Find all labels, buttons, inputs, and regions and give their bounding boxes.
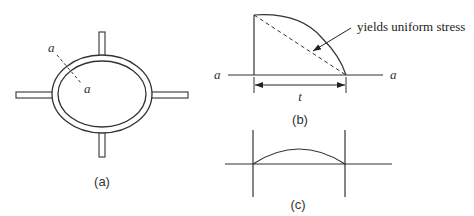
distribution-curve [253, 149, 345, 164]
left-stub [16, 92, 53, 98]
panel-b: a a yields uniform stress t (b) [214, 15, 465, 127]
right-stub [151, 92, 188, 98]
annotation-text: yields uniform stress [357, 19, 465, 34]
caption-c: (c) [290, 197, 305, 212]
section-label-start: a [48, 40, 55, 55]
bottom-stub [99, 132, 105, 157]
dimension-label-t: t [298, 89, 302, 104]
top-stub [99, 32, 105, 56]
caption-a: (a) [94, 174, 110, 189]
panel-c: (c) [225, 130, 392, 212]
figure-canvas: a a (a) a a yields uniform stress t (b) … [0, 0, 474, 216]
annotation-leader-arrow [313, 28, 351, 51]
uniform-stress-line [254, 15, 346, 75]
ring-inner [58, 61, 146, 127]
axis-label-left: a [214, 67, 221, 82]
caption-b: (b) [292, 112, 308, 127]
axis-label-right: a [390, 67, 397, 82]
panel-a: a a (a) [16, 32, 188, 189]
section-label-end: a [84, 81, 91, 96]
